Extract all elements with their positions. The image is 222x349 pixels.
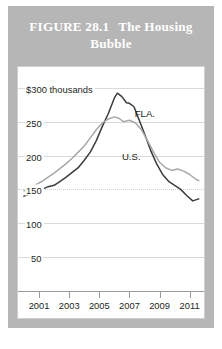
x-axis-label-2001: 2001 bbox=[29, 300, 50, 311]
x-tick-2009 bbox=[160, 292, 161, 298]
x-axis-label-2007: 2007 bbox=[119, 300, 140, 311]
y-axis-label-150: 150 bbox=[25, 185, 44, 196]
figure-title: FIGURE 28.1The Housing Bubble bbox=[8, 6, 214, 64]
chart-series-lines bbox=[18, 67, 204, 318]
y-axis-label-50: 50 bbox=[30, 253, 43, 264]
series-label-fla: FLA. bbox=[135, 108, 155, 119]
chart-x-axis-labels: 200120032005200720092011 bbox=[18, 300, 204, 314]
figure-panel: FIGURE 28.1The Housing Bubble 5010015020… bbox=[8, 6, 214, 328]
x-axis-label-2005: 2005 bbox=[89, 300, 110, 311]
chart-plot-area: 50100150200250$300 thousands FLA.U.S. 20… bbox=[18, 67, 204, 318]
y-axis-label-250: 250 bbox=[25, 117, 44, 128]
x-axis-label-2011: 2011 bbox=[180, 300, 200, 311]
x-tick-2001 bbox=[39, 292, 40, 298]
x-axis-label-2003: 2003 bbox=[59, 300, 80, 311]
series-line-us bbox=[24, 117, 199, 191]
series-label-us: U.S. bbox=[122, 151, 141, 162]
x-tick-2003 bbox=[69, 292, 70, 298]
x-axis-label-2009: 2009 bbox=[149, 300, 170, 311]
series-line-fla bbox=[24, 93, 199, 201]
y-axis-label-100: 100 bbox=[25, 219, 44, 230]
chart-x-axis-line bbox=[18, 291, 204, 292]
x-tick-2011 bbox=[190, 292, 191, 298]
y-axis-label-300: $300 thousands bbox=[25, 83, 95, 94]
x-tick-2005 bbox=[99, 292, 100, 298]
x-tick-2007 bbox=[129, 292, 130, 298]
figure-number: FIGURE 28.1 bbox=[29, 19, 109, 34]
y-axis-label-200: 200 bbox=[25, 151, 44, 162]
chart-card: 50100150200250$300 thousands FLA.U.S. 20… bbox=[17, 66, 205, 319]
